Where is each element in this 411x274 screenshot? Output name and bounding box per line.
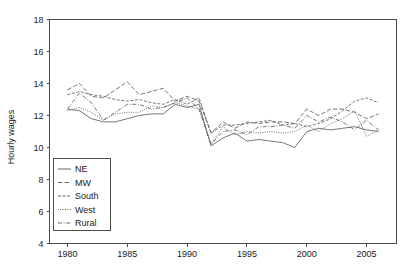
y-axis-label: Hourly wages (6, 109, 16, 164)
legend-label-rural: Rural (75, 218, 97, 228)
hourly-wages-line-chart: 4681012141618 198019851990199520002005 H… (0, 0, 411, 274)
legend-label-west: West (75, 205, 96, 215)
x-tick-label: 1990 (177, 249, 197, 259)
legend-label-ne: NE (75, 164, 88, 174)
y-tick-label: 16 (33, 47, 43, 57)
y-tick-label: 14 (33, 79, 43, 89)
y-tick-label: 6 (38, 207, 43, 217)
chart-background (0, 0, 411, 274)
y-tick-label: 4 (38, 239, 43, 249)
x-tick-label: 1995 (237, 249, 257, 259)
legend-label-south: South (75, 191, 99, 201)
x-tick-label: 2005 (357, 249, 377, 259)
y-tick-label: 10 (33, 143, 43, 153)
y-tick-label: 12 (33, 111, 43, 121)
x-tick-label: 1985 (117, 249, 137, 259)
x-tick-label: 2000 (297, 249, 317, 259)
y-tick-label: 8 (38, 175, 43, 185)
y-tick-label: 18 (33, 15, 43, 25)
legend-label-mw: MW (75, 178, 91, 188)
x-tick-label: 1980 (57, 249, 77, 259)
chart-container: 4681012141618 198019851990199520002005 H… (0, 0, 411, 274)
chart-legend: NEMWSouthWestRural (54, 159, 111, 231)
